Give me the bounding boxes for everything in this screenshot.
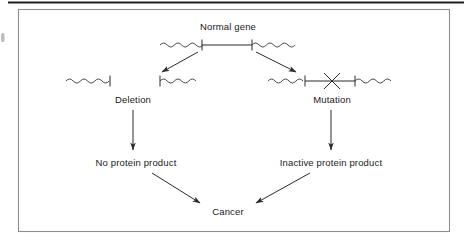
gene-mutation-flow-diagram: Normal gene Deletion: [0, 0, 464, 246]
inactive-protein-product-label: Inactive protein product: [280, 157, 383, 168]
deletion-right-fragment-wavy: [160, 79, 196, 83]
cancer-label: Cancer: [212, 206, 244, 217]
mutation-label: Mutation: [313, 94, 351, 105]
normal-gene-right-wavy-flank: [252, 43, 295, 47]
edge-inactive-protein-to-cancer: [256, 173, 310, 203]
normal-gene-label: Normal gene: [200, 21, 256, 32]
mutation-right-wavy-flank: [355, 79, 391, 83]
scan-artifact-smudge: [1, 33, 5, 42]
mutation-gene-glyph: [268, 73, 391, 89]
normal-gene-glyph: [160, 40, 295, 51]
deletion-label: Deletion: [115, 94, 151, 105]
edge-normal-gene-to-mutation: [256, 52, 296, 72]
no-protein-product-label: No protein product: [96, 157, 177, 168]
deletion-left-fragment-wavy: [66, 79, 109, 83]
mutation-left-wavy-flank: [268, 79, 303, 83]
figure-page: Normal gene Deletion: [0, 0, 464, 246]
deletion-gene-glyph: [66, 76, 196, 87]
normal-gene-left-wavy-flank: [160, 43, 203, 47]
edge-no-protein-to-cancer: [152, 173, 200, 203]
figure-border: [19, 10, 450, 232]
edge-normal-gene-to-deletion: [162, 52, 198, 72]
